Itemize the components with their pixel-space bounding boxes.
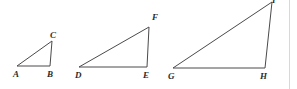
vertex-label-a: A (13, 70, 19, 79)
vertex-label-d: D (75, 71, 82, 80)
vertex-label-f: F (152, 13, 158, 22)
vertex-label-g: G (168, 72, 175, 81)
vertex-label-i: I (272, 0, 276, 5)
vertex-label-c: C (50, 31, 56, 40)
triangle-abc-shape (17, 41, 52, 66)
vertex-label-h: H (260, 72, 267, 81)
right-edge-rule (289, 0, 290, 89)
geometry-figure: A B C D E F G H I (0, 0, 297, 89)
triangle-ghi-shape (173, 2, 272, 68)
vertex-label-e: E (143, 71, 149, 80)
vertex-label-b: B (47, 70, 53, 79)
triangle-def-shape (79, 27, 149, 67)
